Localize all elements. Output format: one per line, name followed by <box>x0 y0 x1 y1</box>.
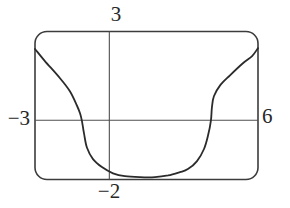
y-max-tick-label: 3 <box>102 3 130 25</box>
plot-canvas <box>0 0 290 208</box>
y-min-tick-label: −2 <box>93 180 125 202</box>
viewing-window-border <box>35 32 258 180</box>
x-min-tick-label: −3 <box>0 107 30 129</box>
function-curve <box>35 48 258 177</box>
viewing-rectangle-figure: 3 −3 6 −2 <box>0 0 290 208</box>
x-max-tick-label: 6 <box>262 105 288 127</box>
